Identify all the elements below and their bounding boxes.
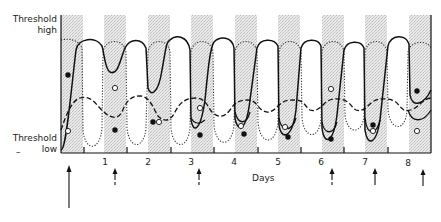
day-label-6: 6 bbox=[318, 157, 324, 167]
day-label-4: 4 bbox=[231, 157, 237, 167]
arrow-solid-icon bbox=[421, 169, 426, 186]
y-label-low-line2: low bbox=[42, 144, 57, 154]
arrows bbox=[67, 165, 426, 208]
x-axis-title: Days bbox=[252, 173, 275, 183]
arrow-dashed-icon bbox=[330, 168, 335, 185]
arrow-dashed-icon bbox=[197, 168, 202, 185]
y-label-high-line1: Threshold bbox=[12, 14, 57, 24]
arrow-solid-icon bbox=[373, 168, 378, 185]
day-label-1: 1 bbox=[102, 157, 108, 167]
day-label-5: 5 bbox=[275, 157, 281, 167]
solid-curve-inner bbox=[191, 110, 431, 132]
day-label-3: 3 bbox=[188, 157, 194, 167]
day-label-8: 8 bbox=[405, 158, 411, 168]
y-label-low-line1: Threshold bbox=[12, 133, 57, 143]
day-label-7: 7 bbox=[362, 157, 368, 167]
arrow-long-icon bbox=[67, 165, 72, 208]
minus-marker: – bbox=[16, 147, 21, 157]
threshold-diagram: Threshold high Threshold low – 1 2 3 4 5… bbox=[0, 0, 441, 222]
arrow-dashed-icon bbox=[113, 168, 118, 185]
day-label-2: 2 bbox=[145, 157, 151, 167]
y-label-high-line2: high bbox=[37, 25, 57, 35]
